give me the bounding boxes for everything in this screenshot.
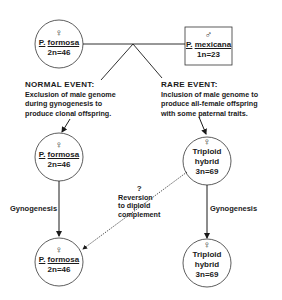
female-symbol-icon: ♀ — [183, 240, 231, 250]
rare-event-line: produce all-female offspring — [161, 99, 258, 109]
ploidy-label: 2n=46 — [35, 265, 83, 275]
hybrid-label-line1: Triploid — [183, 250, 231, 260]
normal-event-title: NORMAL EVENT: — [25, 80, 116, 90]
normal-event-line: Exclusion of male genome — [25, 90, 116, 100]
hybrid-label-line2: hybrid — [183, 157, 231, 167]
ploidy-label: 2n=46 — [35, 160, 83, 170]
node-p-mexicana-parent: ♂ P. mexicana 1n=23 — [185, 30, 232, 60]
ploidy-label: 2n=46 — [35, 48, 83, 58]
species-name: P. formosa — [35, 38, 83, 48]
male-symbol-icon: ♂ — [185, 30, 232, 40]
hybrid-label-line1: Triploid — [183, 147, 231, 157]
node-p-formosa-reverted: ♀ P. formosa 2n=46 — [35, 245, 83, 275]
right-gynogenesis-label: Gynogenesis — [210, 204, 257, 213]
hybrid-label-line2: hybrid — [183, 260, 231, 270]
female-symbol-icon: ♀ — [35, 28, 83, 38]
reversion-label: ? Reversion to diploid complement — [118, 185, 160, 219]
node-p-formosa-clone: ♀ P. formosa 2n=46 — [35, 140, 83, 170]
species-name: P. formosa — [35, 255, 83, 265]
node-triploid-hybrid-offspring: ♀ Triploid hybrid 3n=69 — [183, 240, 231, 280]
normal-event-label: NORMAL EVENT: Exclusion of male genome d… — [25, 80, 116, 118]
ploidy-label: 3n=69 — [183, 270, 231, 280]
ploidy-label: 1n=23 — [185, 50, 232, 60]
female-symbol-icon: ♀ — [183, 137, 231, 147]
normal-event-line: during gynogenesis to — [25, 99, 116, 109]
female-symbol-icon: ♀ — [35, 245, 83, 255]
ploidy-label: 3n=69 — [183, 167, 231, 177]
left-gynogenesis-label: Gynogenesis — [10, 204, 57, 213]
rare-event-line: Inclusion of male genome to — [161, 90, 258, 100]
reversion-line: complement — [118, 211, 160, 220]
species-name: P. formosa — [35, 150, 83, 160]
rare-event-title: RARE EVENT: — [161, 80, 258, 90]
node-triploid-hybrid: ♀ Triploid hybrid 3n=69 — [183, 137, 231, 177]
normal-event-line: produce clonal offspring. — [25, 109, 116, 119]
node-p-formosa-parent: ♀ P. formosa 2n=46 — [35, 28, 83, 58]
rare-event-line: with some paternal traits. — [161, 109, 258, 119]
rare-event-label: RARE EVENT: Inclusion of male genome to … — [161, 80, 258, 118]
species-name: P. mexicana — [185, 40, 232, 50]
female-symbol-icon: ♀ — [35, 140, 83, 150]
